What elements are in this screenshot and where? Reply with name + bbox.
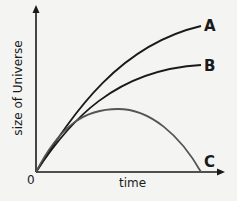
universe-expansion-diagram: A B C 0 time size of Universe bbox=[0, 0, 237, 201]
chart-canvas bbox=[0, 0, 237, 201]
curve-a bbox=[36, 26, 201, 172]
x-axis-arrow-icon bbox=[217, 169, 225, 176]
y-axis-label: size of Universe bbox=[11, 37, 25, 139]
curve-c-label: C bbox=[204, 153, 215, 171]
y-axis-arrow-icon bbox=[33, 5, 40, 13]
curve-c bbox=[36, 109, 201, 172]
curve-b-label: B bbox=[204, 57, 215, 75]
x-axis-label: time bbox=[119, 176, 146, 190]
curve-a-label: A bbox=[204, 17, 216, 35]
curve-b bbox=[36, 65, 201, 172]
origin-label: 0 bbox=[27, 173, 35, 187]
